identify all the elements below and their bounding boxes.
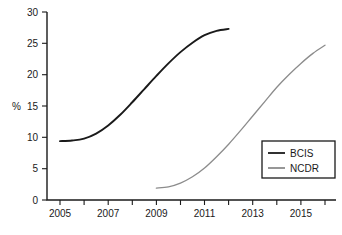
x-tick-label: 2013 [242, 208, 265, 219]
x-tick-label: 2015 [290, 208, 313, 219]
y-tick-label: 30 [27, 7, 39, 18]
y-axis-tick-labels: 0 5 10 15 20 25 30 [27, 7, 39, 206]
x-tick-label: 2007 [97, 208, 120, 219]
y-axis-ticks [42, 12, 47, 200]
x-axis-tick-labels: 2005 2007 2009 2011 2013 2015 [49, 208, 313, 219]
series-line-bcis [60, 29, 229, 141]
figure-container: 0 5 10 15 20 25 30 % 2005 [0, 0, 342, 235]
y-tick-label: 25 [27, 38, 39, 49]
line-chart: 0 5 10 15 20 25 30 % 2005 [0, 0, 342, 235]
x-tick-label: 2005 [49, 208, 72, 219]
x-axis-ticks [60, 200, 325, 205]
y-tick-label: 15 [27, 101, 39, 112]
y-axis-title: % [12, 101, 21, 112]
legend-label-bcis: BCIS [290, 148, 314, 159]
legend: BCIS NCDR [262, 141, 335, 178]
legend-label-ncdr: NCDR [290, 163, 319, 174]
y-tick-label: 0 [32, 195, 38, 206]
y-tick-label: 10 [27, 132, 39, 143]
y-tick-label: 20 [27, 69, 39, 80]
x-tick-label: 2009 [145, 208, 168, 219]
y-tick-label: 5 [32, 163, 38, 174]
x-tick-label: 2011 [194, 208, 216, 219]
